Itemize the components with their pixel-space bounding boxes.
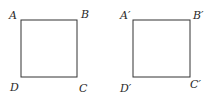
square-abcd-prime: A′ B′ D′ C′	[119, 9, 204, 95]
label-d-prime: D′	[119, 82, 132, 95]
label-c-prime: C′	[190, 78, 201, 91]
square-abcd: A B D C	[8, 8, 89, 95]
diagram-canvas: A B D C A′ B′ D′ C′	[0, 0, 213, 99]
square-abcd-outline	[21, 20, 77, 77]
label-d: D	[9, 81, 19, 94]
label-b: B	[80, 8, 89, 21]
label-a-prime: A′	[119, 9, 131, 22]
square-abcd-prime-outline	[133, 20, 190, 77]
label-a: A	[8, 9, 17, 22]
label-b-prime: B′	[192, 9, 204, 22]
label-c: C	[79, 82, 88, 95]
